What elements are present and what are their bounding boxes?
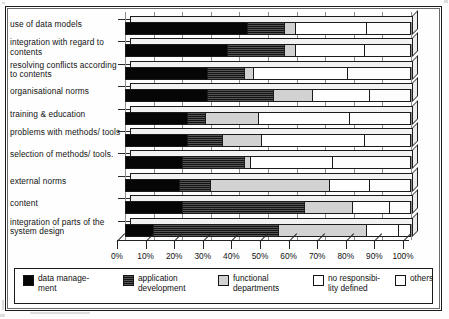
bar-segment-functional-departments — [305, 202, 353, 213]
bar-segment-functional-departments — [211, 180, 330, 191]
stacked-bar — [125, 67, 411, 80]
x-tick-label: 40% — [223, 251, 240, 261]
category-axis-labels: use of data modelsintegration with regar… — [8, 8, 126, 248]
legend-item: functional departments — [218, 274, 279, 293]
bar-segment-no-responsibility-defined — [330, 180, 370, 191]
bar-segment-application-development — [248, 23, 285, 34]
chart-figure: use of data modelsintegration with regar… — [0, 0, 449, 319]
bars-and-gridlines — [125, 12, 425, 248]
legend-swatch-icon — [218, 275, 229, 286]
bar-segment-application-development — [180, 180, 211, 191]
stacked-bar — [125, 22, 411, 35]
legend-item: application development — [123, 274, 186, 293]
bar-segment-data-management — [126, 157, 183, 168]
category-label: integration with regard to contents — [10, 38, 122, 57]
plot-area: use of data modelsintegration with regar… — [8, 8, 431, 256]
category-label: problems with methods/ tools — [10, 128, 122, 138]
bar-segment-application-development — [208, 68, 245, 79]
bar-right-face — [412, 212, 418, 237]
bar-right-face — [412, 100, 418, 125]
x-tick-label: 10% — [137, 251, 154, 261]
bar-right-face — [412, 144, 418, 169]
bar-segment-others — [370, 180, 410, 191]
bar-segment-no-responsibility-defined — [262, 135, 364, 146]
bar-segment-no-responsibility-defined — [296, 23, 367, 34]
bar-segment-data-management — [126, 90, 208, 101]
bar-row — [125, 61, 411, 81]
legend-swatch-icon — [395, 275, 406, 286]
scan-artifact — [2, 2, 5, 4]
legend-label: functional departments — [233, 274, 279, 293]
x-tick-label: 50% — [252, 251, 269, 261]
bar-segment-data-management — [126, 225, 154, 236]
scan-artifact — [30, 312, 90, 314]
bar-segment-no-responsibility-defined — [296, 45, 364, 56]
bar-segment-functional-departments — [274, 90, 314, 101]
bar-row — [125, 83, 411, 103]
category-label: resolving conflicts according to content… — [10, 61, 122, 80]
bar-segment-data-management — [126, 180, 180, 191]
bar-segment-application-development — [183, 202, 305, 213]
bar-segment-no-responsibility-defined — [313, 90, 370, 101]
category-label: integration of parts of the system desig… — [10, 218, 122, 237]
x-tick-label: 70% — [309, 251, 326, 261]
bar-segment-others — [390, 202, 410, 213]
bar-segment-application-development — [208, 90, 273, 101]
legend-item: no responsibi- lity defined — [313, 274, 380, 293]
bar-row — [125, 173, 411, 193]
bar-row — [125, 106, 411, 126]
bar-row — [125, 128, 411, 148]
bar-right-face — [412, 32, 418, 57]
stacked-bar — [125, 201, 411, 214]
axis-line — [117, 240, 409, 241]
bar-segment-no-responsibility-defined — [259, 113, 350, 124]
stacked-bar — [125, 89, 411, 102]
category-label: training & education — [10, 110, 122, 120]
legend-swatch-icon — [313, 275, 324, 286]
bar-segment-others — [367, 23, 410, 34]
bar-row — [125, 195, 411, 215]
bar-segment-others — [365, 45, 410, 56]
bar-segment-functional-departments — [223, 135, 263, 146]
legend-item: data manage- ment — [23, 274, 89, 293]
bar-segment-others — [348, 68, 410, 79]
bar-right-face — [412, 77, 418, 102]
bar-segment-data-management — [126, 202, 183, 213]
legend-swatch-icon — [123, 275, 134, 286]
category-label: external norms — [10, 177, 122, 187]
x-tick-label: 90% — [366, 251, 383, 261]
bar-segment-data-management — [126, 68, 208, 79]
bar-segment-others — [370, 90, 410, 101]
category-label: organisational norms — [10, 87, 122, 97]
bar-segment-application-development — [188, 113, 205, 124]
bar-segment-functional-departments — [285, 23, 296, 34]
bar-segment-others — [365, 135, 410, 146]
scan-artifact — [0, 314, 5, 317]
legend-item: others — [395, 274, 433, 286]
bar-segment-functional-departments — [245, 68, 254, 79]
bar-segment-data-management — [126, 23, 248, 34]
bar-segment-application-development — [183, 157, 245, 168]
bar-segment-others — [350, 113, 410, 124]
bar-segment-application-development — [154, 225, 279, 236]
scan-artifact — [444, 0, 448, 3]
bar-segment-no-responsibility-defined — [367, 225, 398, 236]
category-label: selection of methods/ tools. — [10, 150, 122, 160]
stacked-bar — [125, 44, 411, 57]
bar-row — [125, 16, 411, 36]
bar-segment-application-development — [188, 135, 222, 146]
bar-segment-functional-departments — [206, 113, 260, 124]
legend-label: no responsibi- lity defined — [328, 274, 380, 293]
legend-swatch-icon — [23, 275, 34, 286]
bar-segment-no-responsibility-defined — [251, 157, 333, 168]
x-tick-label: 20% — [166, 251, 183, 261]
stacked-bar — [125, 224, 411, 237]
bar-segment-data-management — [126, 113, 188, 124]
bar-segment-application-development — [228, 45, 285, 56]
bar-row — [125, 218, 411, 238]
x-tick-label: 30% — [194, 251, 211, 261]
x-tick-label: 0% — [111, 251, 123, 261]
category-label: content — [10, 199, 122, 209]
stacked-bar — [125, 179, 411, 192]
bar-segment-data-management — [126, 45, 228, 56]
